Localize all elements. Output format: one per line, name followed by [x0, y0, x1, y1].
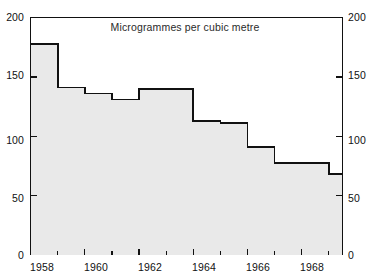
x-axis-label-1968: 1968	[292, 261, 332, 273]
y-axis-left-label-100: 100	[0, 134, 24, 146]
x-axis-label-1962: 1962	[130, 261, 170, 273]
y-axis-right-label-50: 50	[348, 192, 370, 204]
area-fill	[31, 44, 343, 255]
y-axis-left-label-200: 200	[0, 11, 24, 23]
x-axis-label-1964: 1964	[184, 261, 224, 273]
y-axis-right-label-0: 0	[348, 249, 370, 261]
x-axis-label-1960: 1960	[76, 261, 116, 273]
y-axis-left-label-150: 150	[0, 69, 24, 81]
chart-container: Microgrammes per cubic metre 200 150 100…	[0, 0, 370, 280]
chart-svg-layer	[0, 0, 370, 280]
y-axis-right-label-150: 150	[348, 69, 370, 81]
y-axis-left-label-50: 50	[0, 192, 24, 204]
y-axis-left-label-0: 0	[0, 249, 24, 261]
y-axis-right-label-200: 200	[348, 11, 370, 23]
x-axis-label-1966: 1966	[238, 261, 278, 273]
data-series-step-area	[31, 44, 343, 255]
x-axis-label-1958: 1958	[22, 261, 62, 273]
y-axis-right-label-100: 100	[348, 134, 370, 146]
